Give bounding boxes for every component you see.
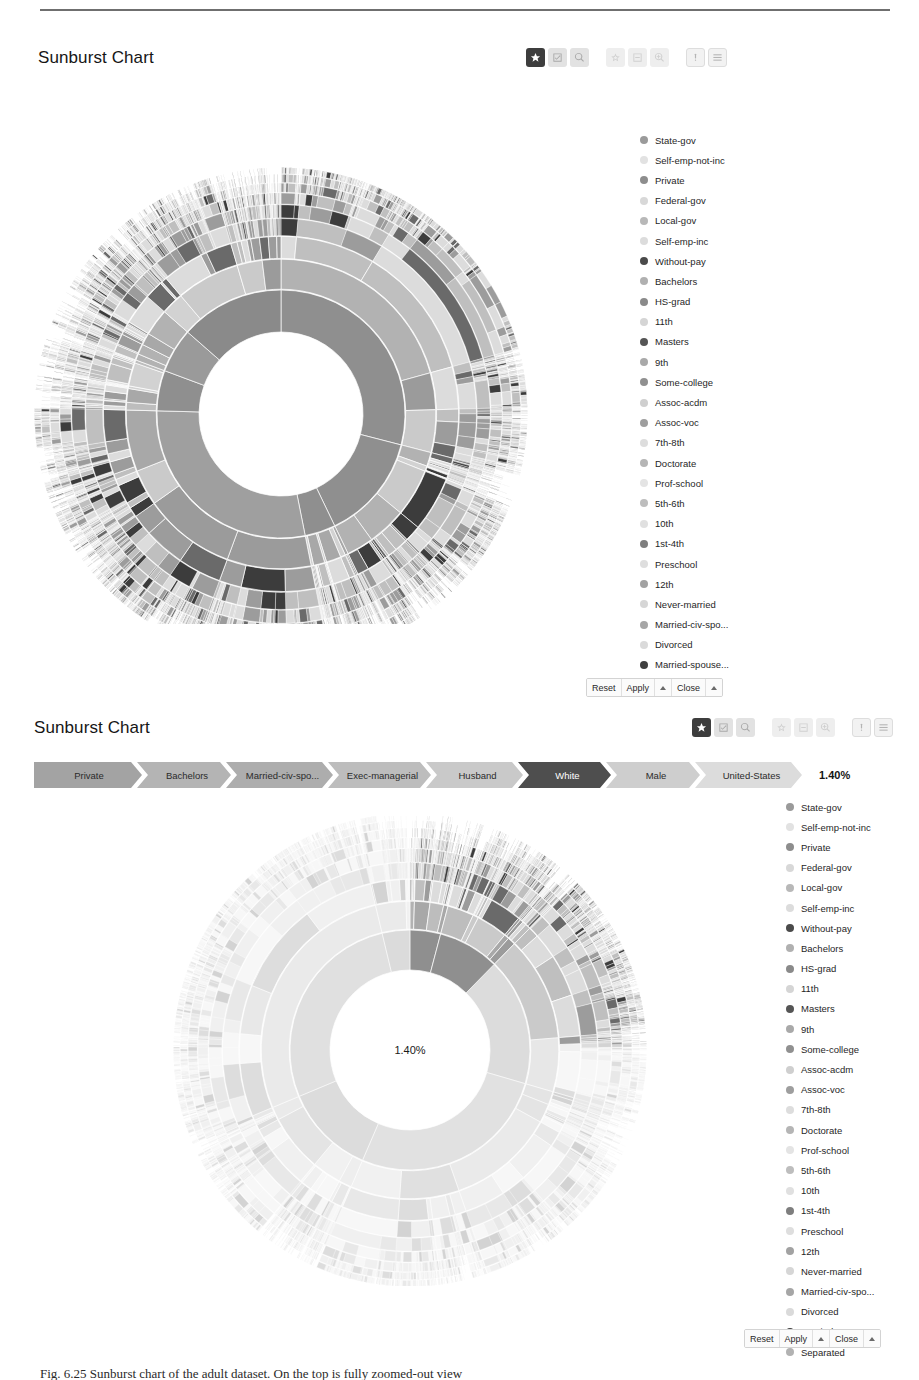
legend-item[interactable]: 12th: [640, 574, 729, 594]
legend-item[interactable]: Masters: [640, 332, 729, 352]
star-icon-button[interactable]: [526, 48, 545, 67]
apply-button-2[interactable]: Apply: [780, 1330, 814, 1347]
legend-item[interactable]: Federal-gov: [640, 191, 729, 211]
legend-item[interactable]: 7th-8th: [786, 1100, 875, 1120]
legend-item[interactable]: 1st-4th: [786, 1201, 875, 1221]
legend-item[interactable]: Preschool: [640, 554, 729, 574]
legend-item[interactable]: Masters: [786, 999, 875, 1019]
legend-item[interactable]: Self-emp-not-inc: [786, 817, 875, 837]
apply-caret-up-icon[interactable]: [655, 679, 672, 696]
breadcrumb-item[interactable]: Husband: [426, 762, 523, 788]
legend-item[interactable]: Assoc-acdm: [786, 1059, 875, 1079]
toolbar-group-2: [606, 48, 669, 67]
legend-item[interactable]: Self-emp-inc: [786, 898, 875, 918]
legend-item[interactable]: 9th: [640, 352, 729, 372]
breadcrumb-item[interactable]: Exec-managerial: [328, 762, 431, 788]
legend-item[interactable]: Married-civ-spo...: [640, 615, 729, 635]
legend-item[interactable]: Private: [640, 170, 729, 190]
legend-item-label: Without-pay: [801, 923, 852, 934]
legend-item[interactable]: Prof-school: [786, 1140, 875, 1160]
menu-icon-button-2[interactable]: [874, 718, 893, 737]
legend-item[interactable]: 10th: [640, 514, 729, 534]
close-button-2[interactable]: Close: [830, 1330, 864, 1347]
breadcrumb-item[interactable]: Married-civ-spo...: [226, 762, 333, 788]
legend-item[interactable]: Some-college: [786, 1039, 875, 1059]
legend-item[interactable]: 10th: [786, 1181, 875, 1201]
search-icon-button[interactable]: [570, 48, 589, 67]
legend-swatch-icon: [786, 1308, 794, 1316]
zoom-icon-button-2[interactable]: [816, 718, 835, 737]
checkbox-icon-button[interactable]: [548, 48, 567, 67]
legend-item[interactable]: Without-pay: [786, 918, 875, 938]
reset-button[interactable]: Reset: [587, 679, 622, 696]
legend-item[interactable]: 11th: [786, 979, 875, 999]
legend-item[interactable]: Divorced: [640, 635, 729, 655]
legend-item[interactable]: State-gov: [640, 130, 729, 150]
breadcrumb-item[interactable]: Bachelors: [137, 762, 231, 788]
legend-item[interactable]: 1st-4th: [640, 534, 729, 554]
figure-caption: Fig. 6.25 Sunburst chart of the adult da…: [40, 1366, 880, 1380]
checkbox-icon-button-2[interactable]: [714, 718, 733, 737]
legend-item[interactable]: Without-pay: [640, 251, 729, 271]
sunburst-chart-highlight[interactable]: 1.40%: [160, 816, 660, 1290]
star-outline-icon-button-2[interactable]: [772, 718, 791, 737]
legend-item[interactable]: Assoc-voc: [786, 1080, 875, 1100]
breadcrumb-item[interactable]: United-States: [695, 762, 802, 788]
legend-item[interactable]: 7th-8th: [640, 433, 729, 453]
close-caret-up-icon[interactable]: [706, 679, 722, 696]
apply-button[interactable]: Apply: [622, 679, 656, 696]
apply-caret-up-icon-2[interactable]: [813, 1330, 830, 1347]
zoom-icon-button[interactable]: [650, 48, 669, 67]
legend-item[interactable]: Local-gov: [640, 211, 729, 231]
legend-item[interactable]: Prof-school: [640, 473, 729, 493]
star-icon-button-2[interactable]: [692, 718, 711, 737]
legend-item[interactable]: Local-gov: [786, 878, 875, 898]
legend-swatch-icon: [640, 479, 648, 487]
legend-item[interactable]: Doctorate: [786, 1120, 875, 1140]
legend-item[interactable]: Private: [786, 837, 875, 857]
legend-item[interactable]: Married-civ-spo...: [786, 1282, 875, 1302]
close-button[interactable]: Close: [672, 679, 706, 696]
legend-item[interactable]: Self-emp-not-inc: [640, 150, 729, 170]
collapse-icon-button-2[interactable]: [794, 718, 813, 737]
info-icon-button-2[interactable]: [852, 718, 871, 737]
legend-item[interactable]: Self-emp-inc: [640, 231, 729, 251]
legend-item[interactable]: Doctorate: [640, 453, 729, 473]
legend-item[interactable]: Federal-gov: [786, 858, 875, 878]
menu-icon-button[interactable]: [708, 48, 727, 67]
legend-item[interactable]: 9th: [786, 1019, 875, 1039]
legend-item[interactable]: Assoc-acdm: [640, 392, 729, 412]
close-caret-up-icon-2[interactable]: [864, 1330, 880, 1347]
legend-item[interactable]: Preschool: [786, 1221, 875, 1241]
legend-swatch-icon: [640, 176, 648, 184]
legend-item[interactable]: Never-married: [640, 594, 729, 614]
legend-item-label: Bachelors: [801, 943, 843, 954]
legend-item[interactable]: 5th-6th: [786, 1160, 875, 1180]
collapse-icon-button[interactable]: [628, 48, 647, 67]
sunburst-chart-full[interactable]: [26, 134, 536, 628]
legend-item[interactable]: Assoc-voc: [640, 413, 729, 433]
legend-item-label: Assoc-voc: [801, 1084, 845, 1095]
breadcrumb-item[interactable]: White: [518, 762, 611, 788]
legend-item[interactable]: Bachelors: [786, 938, 875, 958]
legend-item[interactable]: Bachelors: [640, 271, 729, 291]
legend-item[interactable]: 12th: [786, 1241, 875, 1261]
legend-item[interactable]: Never-married: [786, 1261, 875, 1281]
legend-item[interactable]: 11th: [640, 312, 729, 332]
legend-item-label: Never-married: [801, 1266, 862, 1277]
legend-item-label: Private: [655, 175, 685, 186]
star-outline-icon-button[interactable]: [606, 48, 625, 67]
search-icon-button-2[interactable]: [736, 718, 755, 737]
legend-item[interactable]: HS-grad: [786, 959, 875, 979]
legend-item[interactable]: State-gov: [786, 797, 875, 817]
legend-item[interactable]: Some-college: [640, 372, 729, 392]
legend-item[interactable]: Divorced: [786, 1302, 875, 1322]
legend-item-label: Some-college: [801, 1044, 859, 1055]
legend-item[interactable]: Married-spouse...: [640, 655, 729, 675]
legend-item[interactable]: 5th-6th: [640, 493, 729, 513]
breadcrumb-item[interactable]: Male: [606, 762, 700, 788]
legend-item[interactable]: HS-grad: [640, 292, 729, 312]
breadcrumb-item[interactable]: Private: [34, 762, 142, 788]
info-icon-button[interactable]: [686, 48, 705, 67]
reset-button-2[interactable]: Reset: [745, 1330, 780, 1347]
